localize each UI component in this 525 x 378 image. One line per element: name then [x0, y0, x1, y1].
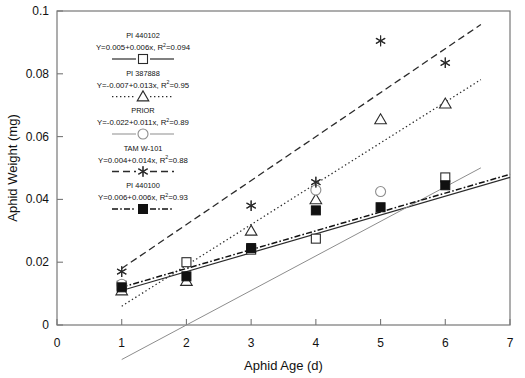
marker-asterisk: [247, 200, 256, 211]
marker-open-triangle: [137, 91, 149, 101]
marker-filled-square: [247, 244, 256, 253]
y-axis-tick-label: 0.1: [32, 4, 49, 18]
legend-series-name: PI 387888: [126, 69, 160, 78]
data-point: [182, 258, 191, 267]
marker-asterisk: [117, 266, 126, 277]
plot-frame: [57, 11, 510, 325]
aphid-weight-scatter-plot: 0123456700.020.040.060.080.1Aphid Age (d…: [0, 0, 525, 378]
marker-open-triangle: [375, 114, 387, 124]
data-point: [376, 36, 385, 47]
legend-equation: Y=-0.022+0.011x, R2=0.89: [97, 117, 189, 127]
marker-asterisk: [138, 166, 147, 177]
marker-filled-square: [182, 272, 191, 281]
y-axis-tick-label: 0.08: [26, 67, 50, 81]
x-axis-tick-label: 3: [248, 336, 255, 350]
data-point: [247, 200, 256, 211]
data-point: [375, 114, 387, 124]
data-point: [441, 181, 450, 190]
x-axis-tick-label: 6: [442, 336, 449, 350]
marker-filled-square: [311, 206, 320, 215]
data-point: [247, 244, 256, 253]
y-axis-tick-label: 0.06: [26, 130, 50, 144]
marker-open-circle: [138, 129, 148, 139]
x-axis-title: Aphid Age (d): [244, 358, 323, 373]
x-axis-tick-label: 7: [507, 336, 514, 350]
data-point: [117, 266, 126, 277]
marker-asterisk: [376, 36, 385, 47]
regression-line: [122, 25, 481, 269]
y-axis-title: Aphid Weight (mg): [5, 114, 20, 221]
legend-series-name: PI 440102: [126, 31, 160, 40]
legend-marker: [137, 91, 149, 101]
x-axis-tick-label: 2: [183, 336, 190, 350]
data-point: [439, 98, 451, 108]
marker-filled-square: [376, 203, 385, 212]
marker-open-square: [139, 55, 148, 64]
legend-series-name: TAM W-101: [124, 144, 163, 153]
marker-filled-square: [441, 181, 450, 190]
legend-equation: Y=0.005+0.006x, R2=0.094: [96, 42, 191, 52]
legend-marker: [139, 205, 148, 214]
y-axis-tick-label: 0.02: [26, 255, 50, 269]
x-axis-tick-label: 1: [118, 336, 125, 350]
x-axis-tick-label: 4: [313, 336, 320, 350]
data-point: [376, 187, 386, 197]
legend-marker: [138, 129, 148, 139]
legend-equation: Y=0.004+0.014x, R2=0.88: [98, 154, 188, 164]
data-point: [311, 234, 320, 243]
y-axis-tick-label: 0: [42, 318, 49, 332]
data-point: [441, 58, 450, 69]
marker-open-square: [311, 234, 320, 243]
y-axis-tick-label: 0.04: [26, 192, 50, 206]
marker-open-circle: [376, 187, 386, 197]
legend-marker: [139, 55, 148, 64]
x-axis-tick-label: 5: [377, 336, 384, 350]
marker-filled-square: [139, 205, 148, 214]
marker-filled-square: [117, 283, 126, 292]
data-point: [376, 203, 385, 212]
legend-equation: Y=-0.007+0.013x, R2=0.95: [97, 79, 190, 89]
data-point: [117, 283, 126, 292]
marker-asterisk: [441, 58, 450, 69]
marker-open-triangle: [439, 98, 451, 108]
chart-container: 0123456700.020.040.060.080.1Aphid Age (d…: [0, 0, 525, 378]
x-axis-tick-label: 0: [54, 336, 61, 350]
legend-equation: Y=0.006+0.006x, R2=0.93: [98, 192, 188, 202]
marker-open-square: [182, 258, 191, 267]
legend-series-name: PRIOR: [131, 106, 154, 115]
legend-marker: [138, 166, 147, 177]
legend-series-name: PI 440100: [126, 181, 160, 190]
data-point: [311, 206, 320, 215]
data-point: [182, 272, 191, 281]
